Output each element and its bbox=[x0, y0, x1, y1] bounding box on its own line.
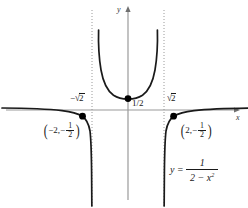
equation-lhs: y bbox=[170, 165, 174, 175]
neg-sqrt2-tick-label: −√2 bbox=[70, 93, 85, 103]
graph-figure: y x 1/2 −√2 √2 (−2,−12) (2,−12) y=12 − x… bbox=[0, 0, 248, 208]
right-point-y-fraction: 12 bbox=[198, 122, 206, 139]
left-frac-denominator: 2 bbox=[66, 130, 74, 139]
equation-fraction: 12 − x2 bbox=[186, 157, 218, 183]
function-equation-label: y=12 − x2 bbox=[170, 157, 218, 183]
pos-sqrt2-tick-label: √2 bbox=[167, 93, 176, 103]
equation-numerator: 1 bbox=[196, 157, 209, 169]
right-paren-open: ( bbox=[181, 126, 185, 136]
y-intercept-value-label: 1/2 bbox=[132, 99, 144, 108]
equation-row: y=12 − x2 bbox=[170, 157, 218, 183]
neg-sqrt2-radical: √2 bbox=[75, 93, 84, 103]
left-point-coordinate-label: (−2,−12) bbox=[43, 122, 80, 139]
right-point-y-sign: − bbox=[192, 126, 197, 135]
left-point-x-value: −2, bbox=[48, 126, 60, 135]
pos-sqrt2-radical: √2 bbox=[167, 93, 176, 103]
left-point-y-fraction: 12 bbox=[66, 122, 74, 139]
left-paren-close: ) bbox=[76, 126, 80, 136]
x-axis-label: x bbox=[236, 114, 240, 122]
right-point-coordinate-label: (2,−12) bbox=[180, 122, 212, 139]
point-left-minus-two bbox=[79, 113, 86, 120]
equation-equals-sign: = bbox=[177, 165, 183, 175]
point-right-two bbox=[170, 113, 177, 120]
right-frac-denominator: 2 bbox=[198, 130, 206, 139]
neg-sqrt2-radicand: 2 bbox=[79, 93, 85, 103]
equation-denominator: 2 − x2 bbox=[186, 169, 218, 184]
left-point-inner: (−2,−12) bbox=[43, 122, 80, 139]
pos-sqrt2-radicand: 2 bbox=[171, 93, 177, 103]
left-paren-open: ( bbox=[44, 126, 48, 136]
left-point-y-sign: − bbox=[60, 126, 65, 135]
equation-denominator-prefix: 2 − bbox=[190, 172, 207, 183]
right-paren-close: ) bbox=[208, 126, 212, 136]
y-axis-label: y bbox=[117, 6, 121, 14]
right-frac-numerator: 1 bbox=[198, 122, 206, 130]
right-point-x-value: 2, bbox=[185, 126, 192, 135]
left-frac-numerator: 1 bbox=[66, 122, 74, 130]
equation-denominator-exponent: 2 bbox=[211, 171, 214, 178]
right-point-inner: (2,−12) bbox=[180, 122, 212, 139]
y-axis bbox=[125, 6, 130, 200]
point-y-intercept bbox=[125, 95, 132, 102]
